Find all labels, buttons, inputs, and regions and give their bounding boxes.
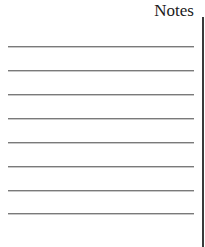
writing-line-3[interactable] — [8, 94, 194, 96]
writing-line-4[interactable] — [8, 118, 194, 120]
writing-line-2[interactable] — [8, 70, 194, 72]
notes-page: Notes — [0, 0, 205, 247]
writing-line-1[interactable] — [8, 46, 194, 48]
writing-line-7[interactable] — [8, 190, 194, 192]
writing-line-8[interactable] — [8, 213, 194, 215]
writing-line-5[interactable] — [8, 142, 194, 144]
writing-line-6[interactable] — [8, 166, 194, 168]
notes-title: Notes — [154, 1, 194, 21]
right-border-divider — [202, 17, 204, 247]
